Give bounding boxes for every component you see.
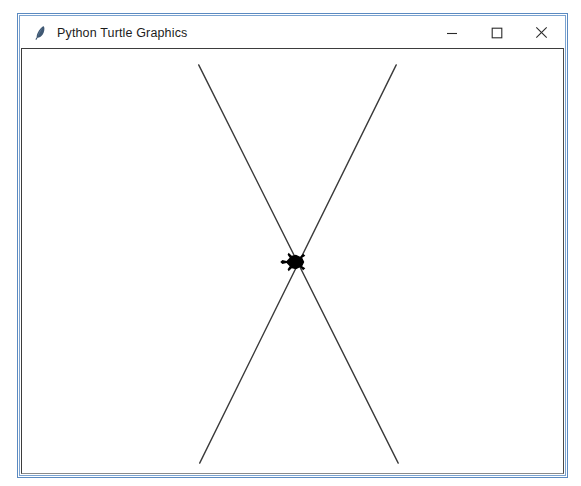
close-icon — [535, 26, 548, 39]
turtle-canvas[interactable] — [22, 49, 563, 473]
turtle-drawing — [22, 49, 563, 473]
minimize-button[interactable] — [429, 17, 474, 48]
title-bar[interactable]: Python Turtle Graphics — [21, 17, 564, 48]
python-feather-icon — [30, 23, 50, 43]
minimize-icon — [446, 27, 458, 39]
window-controls — [429, 17, 564, 48]
turtle-body — [280, 253, 305, 272]
turtle-cursor — [280, 253, 305, 272]
turtle-canvas-frame — [21, 48, 564, 474]
maximize-icon — [491, 27, 503, 39]
maximize-button[interactable] — [474, 17, 519, 48]
window-title: Python Turtle Graphics — [57, 26, 187, 40]
close-button[interactable] — [519, 17, 564, 48]
turtle-graphics-window[interactable]: Python Turtle Graphics — [17, 13, 568, 478]
